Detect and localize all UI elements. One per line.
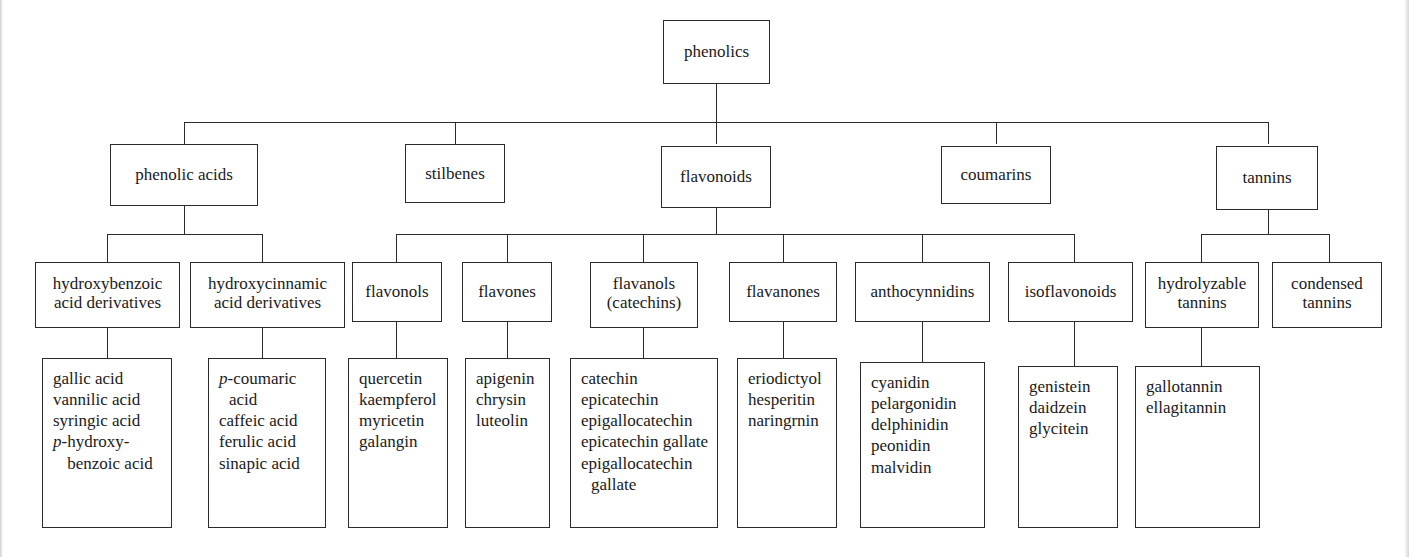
list-item: syringic acid bbox=[53, 410, 171, 431]
compound-list-flavanols[interactable]: catechin epicatechin epigallocatechin ep… bbox=[570, 358, 718, 528]
list-item: epigallocatechin gallate bbox=[581, 453, 717, 495]
list-item-text: -coumaric acid bbox=[228, 369, 297, 409]
compound-list: quercetin kaempferol myricetin galangin bbox=[359, 368, 447, 453]
list-item: myricetin bbox=[359, 410, 447, 431]
compound-list-flavanones[interactable]: eriodictyol hesperitin naringrnin bbox=[737, 358, 837, 528]
node-hydroxycinnamic-acid-derivatives[interactable]: hydroxycinnamic acid derivatives bbox=[190, 262, 345, 328]
compound-list: genistein daidzein glycitein bbox=[1029, 376, 1117, 439]
compound-list: apigenin chrysin luteolin bbox=[476, 368, 549, 431]
node-coumarins[interactable]: coumarins bbox=[941, 146, 1051, 204]
node-flavanols-line2: (catechins) bbox=[595, 293, 693, 312]
node-flavanols-catechins[interactable]: flavanols (catechins) bbox=[590, 262, 698, 328]
connector-drop-hydrolyzable-tannins bbox=[1201, 234, 1202, 262]
compound-list: eriodictyol hesperitin naringrnin bbox=[748, 368, 836, 431]
list-item: daidzein bbox=[1029, 397, 1117, 418]
list-item: ferulic acid bbox=[219, 431, 325, 452]
compound-list-hydrolyzable-tannins[interactable]: gallotannin ellagitannin bbox=[1135, 366, 1260, 528]
phenolics-classification-diagram: phenolics phenolic acids stilbenes flavo… bbox=[0, 0, 1409, 557]
connector-drop-tannins bbox=[1268, 122, 1269, 144]
list-item: naringrnin bbox=[748, 410, 836, 431]
compound-list: p-coumaric acid caffeic acid ferulic aci… bbox=[219, 368, 325, 474]
connector-drop-flavanones bbox=[783, 234, 784, 262]
connector-stem-flavanols-list bbox=[643, 328, 644, 358]
list-item: chrysin bbox=[476, 389, 549, 410]
connector-drop-anthocynnidins bbox=[922, 234, 923, 262]
connector-stem-isoflavonoids-list bbox=[1074, 322, 1075, 366]
node-flavonoids-label: flavonoids bbox=[680, 167, 752, 186]
list-item: ellagitannin bbox=[1146, 397, 1259, 418]
connector-drop-phenolic-acids bbox=[184, 122, 185, 144]
connector-stem-hydroxycinnamic-list bbox=[262, 328, 263, 358]
node-anthocynnidins[interactable]: anthocynnidins bbox=[855, 262, 990, 322]
compound-list-isoflavonoids[interactable]: genistein daidzein glycitein bbox=[1018, 366, 1118, 528]
node-flavanones[interactable]: flavanones bbox=[729, 262, 837, 322]
node-condensed-tannins[interactable]: condensed tannins bbox=[1272, 262, 1382, 328]
node-phenolic-acids[interactable]: phenolic acids bbox=[110, 144, 258, 206]
connector-flavonoids-bus bbox=[396, 234, 1075, 235]
node-hydroxybenzoic-acid-derivatives[interactable]: hydroxybenzoic acid derivatives bbox=[35, 262, 180, 328]
node-flavones-label: flavones bbox=[478, 282, 536, 301]
node-hydroxycinnamic-line2: acid derivatives bbox=[195, 293, 340, 312]
node-coumarins-label: coumarins bbox=[961, 165, 1032, 184]
connector-tannins-bus bbox=[1201, 234, 1329, 235]
node-isoflavonoids[interactable]: isoflavonoids bbox=[1008, 262, 1133, 322]
connector-stem-hydrolyzable-tannins-list bbox=[1201, 328, 1202, 366]
node-stilbenes[interactable]: stilbenes bbox=[405, 144, 505, 203]
node-flavones[interactable]: flavones bbox=[462, 262, 552, 322]
node-hydroxybenzoic-line1: hydroxybenzoic bbox=[40, 274, 175, 293]
node-hydrolyzable-tannins-line2: tannins bbox=[1150, 293, 1254, 312]
node-flavonols[interactable]: flavonols bbox=[352, 262, 442, 322]
connector-drop-flavonols bbox=[396, 234, 397, 262]
compound-list: gallic acid vannilic acid syringic acid … bbox=[53, 368, 171, 474]
list-item: malvidin bbox=[871, 457, 984, 478]
node-anthocynnidins-label: anthocynnidins bbox=[871, 282, 975, 301]
connector-tannins-stem bbox=[1268, 210, 1269, 234]
list-item: gallotannin bbox=[1146, 376, 1259, 397]
connector-stem-anthocynnidins-list bbox=[922, 322, 923, 362]
compound-list-hydroxycinnamic[interactable]: p-coumaric acid caffeic acid ferulic aci… bbox=[208, 358, 326, 528]
compound-list: catechin epicatechin epigallocatechin ep… bbox=[581, 368, 717, 495]
connector-stem-hydroxybenzoic-list bbox=[107, 328, 108, 358]
compound-list-anthocynnidins[interactable]: cyanidin pelargonidin delphinidin peonid… bbox=[860, 362, 985, 528]
node-tannins[interactable]: tannins bbox=[1216, 146, 1318, 210]
list-item: vannilic acid bbox=[53, 389, 171, 410]
list-item: gallic acid bbox=[53, 368, 171, 389]
connector-stem-flavanones-list bbox=[783, 322, 784, 358]
node-stilbenes-label: stilbenes bbox=[425, 164, 485, 183]
scan-edge-right bbox=[1404, 0, 1409, 557]
node-flavonoids[interactable]: flavonoids bbox=[661, 146, 771, 208]
list-item: apigenin bbox=[476, 368, 549, 389]
list-item: p-coumaric acid bbox=[219, 368, 325, 410]
compound-list-flavonols[interactable]: quercetin kaempferol myricetin galangin bbox=[348, 358, 448, 528]
list-item: genistein bbox=[1029, 376, 1117, 397]
list-item: cyanidin bbox=[871, 372, 984, 393]
connector-drop-flavones bbox=[507, 234, 508, 262]
list-item: quercetin bbox=[359, 368, 447, 389]
list-item: epicatechin bbox=[581, 389, 717, 410]
node-hydrolyzable-tannins[interactable]: hydrolyzable tannins bbox=[1145, 262, 1259, 328]
list-item: caffeic acid bbox=[219, 410, 325, 431]
node-hydroxycinnamic-line1: hydroxycinnamic bbox=[195, 274, 340, 293]
list-item: p-hydroxy- benzoic acid bbox=[53, 431, 171, 473]
connector-drop-flavonoids bbox=[716, 122, 717, 144]
connector-drop-condensed-tannins bbox=[1329, 234, 1330, 262]
list-item: catechin bbox=[581, 368, 717, 389]
list-item: eriodictyol bbox=[748, 368, 836, 389]
connector-drop-flavanols bbox=[643, 234, 644, 262]
compound-list-hydroxybenzoic[interactable]: gallic acid vannilic acid syringic acid … bbox=[42, 358, 172, 528]
list-item: kaempferol bbox=[359, 389, 447, 410]
connector-phenolic-acids-stem bbox=[184, 206, 185, 234]
compound-list-flavones[interactable]: apigenin chrysin luteolin bbox=[465, 358, 550, 528]
scan-edge-left bbox=[0, 0, 3, 557]
list-item: peonidin bbox=[871, 435, 984, 456]
list-item: epicatechin gallate bbox=[581, 431, 717, 452]
node-flavonols-label: flavonols bbox=[365, 282, 428, 301]
italic-prefix: p bbox=[219, 369, 228, 388]
connector-stem-flavones-list bbox=[507, 322, 508, 358]
list-item: glycitein bbox=[1029, 418, 1117, 439]
node-phenolics[interactable]: phenolics bbox=[663, 20, 770, 84]
connector-drop-isoflavonoids bbox=[1074, 234, 1075, 262]
node-flavanols-line1: flavanols bbox=[595, 274, 693, 293]
node-condensed-tannins-line1: condensed bbox=[1277, 274, 1377, 293]
compound-list: gallotannin ellagitannin bbox=[1146, 376, 1259, 418]
